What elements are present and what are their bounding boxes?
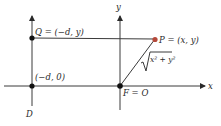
label-y-axis: y <box>115 2 121 12</box>
point-neg-d-0 <box>29 83 34 88</box>
point-q <box>29 35 34 40</box>
segment-qp <box>32 38 155 39</box>
label-q: Q = (−d, y) <box>35 27 84 37</box>
label-neg-d-0: (−d, 0) <box>35 72 65 82</box>
label-x-axis: x <box>208 81 213 91</box>
parabola-diagram: Q = (−d, y) P = (x, y) (−d, 0) F = O D x… <box>0 0 221 126</box>
label-distance: x² + y² <box>150 55 176 64</box>
label-d: D <box>25 109 33 119</box>
point-f <box>117 83 123 89</box>
label-p: P = (x, y) <box>158 35 199 45</box>
label-f: F = O <box>122 88 148 98</box>
point-p <box>152 37 157 42</box>
